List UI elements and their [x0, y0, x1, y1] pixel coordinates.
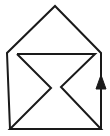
canvas-background: [0, 0, 110, 136]
line-drawing-figure: [0, 0, 110, 136]
